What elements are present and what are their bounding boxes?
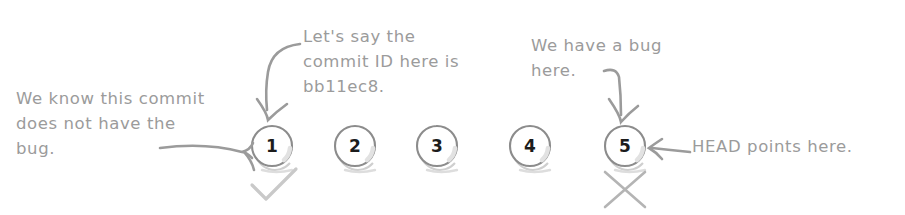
arrow-commitid-to-commit1: [257, 44, 300, 120]
annotation-bug-here: We have a bug here.: [531, 33, 691, 83]
check-mark-icon: [252, 169, 296, 199]
arrow-head-to-commit5: [649, 139, 690, 159]
annotation-known-good: We know this commit does not have the bu…: [16, 86, 256, 161]
annotation-commit-id: Let's say the commit ID here is bb11ec8.: [303, 24, 478, 99]
commit-nodes: [252, 126, 645, 172]
annotation-head-pointer: HEAD points here.: [692, 134, 897, 159]
commit-chain-diagram: 1 2 3 4 5 We know this commit does not h…: [0, 0, 905, 215]
cross-mark-icon: [605, 172, 645, 207]
